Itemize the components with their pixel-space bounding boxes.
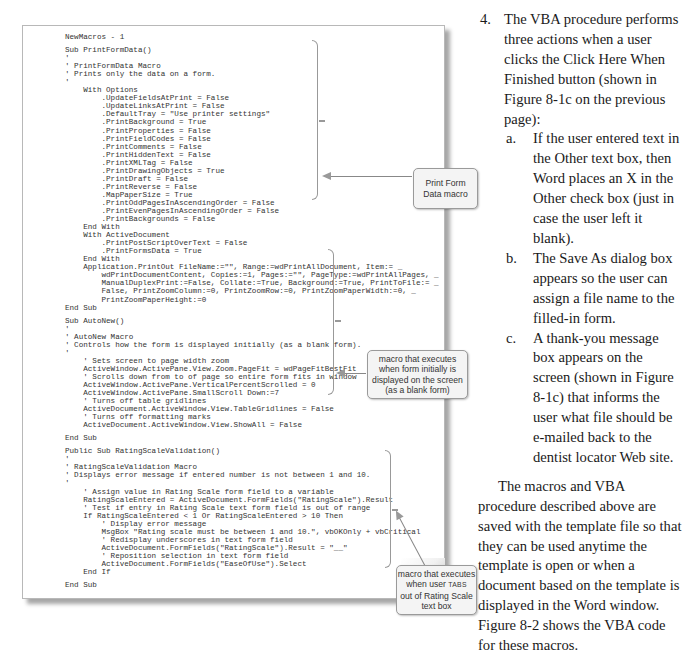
- code-line: ActiveDocument.FormFields("RatingScale")…: [65, 544, 439, 552]
- callout-text: macro that executes: [398, 569, 475, 579]
- rating-bracket: [385, 450, 391, 568]
- code-line: End If: [65, 568, 439, 576]
- print-form-callout: Print Form Data macro: [413, 168, 478, 209]
- code-line: ActiveDocument.ActiveWindow.View.ShowAll…: [65, 421, 439, 429]
- substep-text: The Save As dialog box appears so the us…: [533, 250, 674, 326]
- code-line: ': [65, 325, 439, 333]
- code-line: .PrintFormsData = True: [65, 247, 439, 255]
- code-line: Sub AutoNew(): [65, 317, 439, 325]
- code-line: MsgBox "Rating scale must be between 1 a…: [65, 528, 439, 536]
- code-line: .PrintBackgrounds = False: [65, 215, 439, 223]
- autonew-bracket-tip: [335, 320, 341, 322]
- code-line: ' Controls how the form is displayed ini…: [65, 341, 439, 349]
- callout-text-part: when user: [406, 579, 448, 589]
- substep-text: If the user entered text in the Other te…: [533, 130, 679, 246]
- code-line: End Sub: [65, 304, 439, 312]
- code-line: ' Display error message: [65, 520, 439, 528]
- code-line: ' Reposition selection in text form fiel…: [65, 552, 439, 560]
- code-line: ': [65, 54, 439, 62]
- step-text: The VBA procedure performs three actions…: [504, 11, 678, 127]
- code-line: With ActiveDocument: [65, 231, 439, 239]
- rating-callout: macro that executes when user TABS out o…: [396, 565, 477, 615]
- code-line: .UpdateLinksAtPrint = False: [65, 102, 439, 110]
- code-line: .DefaultTray = "Use printer settings": [65, 110, 439, 118]
- callout-text: out of Rating Scale: [398, 591, 475, 601]
- code-line: RatingScaleEntered = ActiveDocument.Form…: [65, 496, 439, 504]
- code-line: .PrintEvenPagesInAscendingOrder = False: [65, 207, 439, 215]
- substep-b: b. The Save As dialog box appears so the…: [504, 249, 683, 329]
- callout-text: text box: [398, 601, 475, 611]
- code-line: End Sub: [65, 581, 439, 589]
- substep-label: a.: [506, 129, 516, 149]
- code-line: End With: [65, 223, 439, 231]
- print-form-bracket: [312, 40, 318, 200]
- code-line: .UpdateFieldsAtPrint = False: [65, 94, 439, 102]
- code-line: End Sub: [65, 434, 439, 442]
- code-line: PrintZoomPaperHeight:=0: [65, 296, 439, 304]
- substep-label: b.: [506, 249, 517, 269]
- code-line: ': [65, 78, 439, 86]
- code-line: .PrintFieldCodes = False: [65, 135, 439, 143]
- substep-label: c.: [506, 329, 516, 349]
- step-4: 4. The VBA procedure performs three acti…: [478, 10, 683, 129]
- print-form-bracket-tip: [319, 120, 325, 122]
- code-line: Sub PrintFormData(): [65, 46, 439, 54]
- code-line: NewMacros - 1: [65, 33, 439, 41]
- code-line: ActiveDocument.ActiveWindow.View.TableGr…: [65, 405, 439, 413]
- code-line: ActiveDocument.FormFields("EaseOfUse").S…: [65, 560, 439, 568]
- tab-key-label: TABS: [448, 581, 466, 588]
- print-form-arrowhead-icon: [322, 172, 331, 180]
- code-line: .PrintXMLTag = False: [65, 159, 439, 167]
- code-line: ' AutoNew Macro: [65, 333, 439, 341]
- callout-text: when form initially is: [372, 364, 463, 374]
- code-line: .PrintPostScriptOverText = False: [65, 239, 439, 247]
- code-line: .PrintComments = False: [65, 143, 439, 151]
- substep-text: A thank-you message box appears on the s…: [533, 330, 674, 465]
- code-line: wdPrintDocumentContent, Copies:=1, Pages…: [65, 271, 439, 279]
- callout-text: macro that executes: [372, 354, 463, 364]
- code-line: With Options: [65, 86, 439, 94]
- code-line: Public Sub RatingScaleValidation(): [65, 447, 439, 455]
- summary-paragraph: The macros and VBA procedure described a…: [478, 477, 683, 654]
- code-line: End With: [65, 255, 439, 263]
- code-line: ' PrintFormData Macro: [65, 62, 439, 70]
- code-line: False, PrintZoomColumn:=0, PrintZoomRow:…: [65, 287, 439, 295]
- code-line: .PrintProperties = False: [65, 127, 439, 135]
- instruction-text: 4. The VBA procedure performs three acti…: [478, 10, 683, 654]
- code-line: Application.PrintOut FileName:="", Range…: [65, 263, 439, 271]
- code-line: ' Prints only the data on a form.: [65, 70, 439, 78]
- code-line: ' Test if entry in Rating Scale text for…: [65, 504, 439, 512]
- code-line: ': [65, 455, 439, 463]
- code-line: .PrintOddPagesInAscendingOrder = False: [65, 199, 439, 207]
- print-form-arrow: [326, 176, 412, 177]
- callout-text: displayed on the screen: [372, 375, 463, 385]
- code-line: ' RatingScaleValidation Macro: [65, 463, 439, 471]
- callout-text: Data macro: [423, 189, 467, 199]
- step-number: 4.: [480, 10, 491, 30]
- code-line: .PrintBackground = True: [65, 118, 439, 126]
- autonew-callout: macro that executes when form initially …: [367, 350, 468, 399]
- code-line: ' Redisplay underscores in text form fie…: [65, 536, 439, 544]
- autonew-arrowhead-icon: [336, 369, 345, 377]
- callout-text: Print Form: [423, 178, 467, 188]
- code-line: ' Turns off formatting marks: [65, 413, 439, 421]
- callout-text: (as a blank form): [372, 385, 463, 395]
- vba-code-listing: NewMacros - 1Sub PrintFormData()'' Print…: [65, 33, 439, 589]
- code-line: .PrintReverse = False: [65, 183, 439, 191]
- code-line: .MapPaperSize = True: [65, 191, 439, 199]
- code-line: .PrintHiddenText = False: [65, 151, 439, 159]
- callout-text: when user TABS: [398, 579, 475, 590]
- substep-a: a. If the user entered text in the Other…: [504, 129, 683, 248]
- vba-code-figure: NewMacros - 1Sub PrintFormData()'' Print…: [22, 25, 445, 599]
- substep-c: c. A thank-you message box appears on th…: [504, 329, 683, 468]
- code-line: ManualDuplexPrint:=False, Collate:=True,…: [65, 279, 439, 287]
- code-line: If RatingScaleEntered < 1 Or RatingScale…: [65, 512, 439, 520]
- code-line: ': [65, 479, 439, 487]
- code-line: .PrintDrawingObjects = True: [65, 167, 439, 175]
- code-line: ' Displays error message if entered numb…: [65, 471, 439, 479]
- autonew-bracket: [328, 249, 334, 395]
- code-line: ' Assign value in Rating Scale form fiel…: [65, 488, 439, 496]
